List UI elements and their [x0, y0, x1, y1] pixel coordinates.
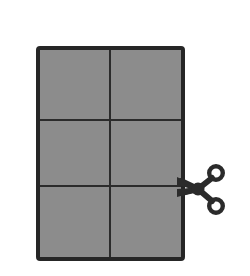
- figure-illustration: [0, 0, 250, 276]
- shaded-rectangle: [38, 48, 183, 259]
- scissors-pivot: [192, 183, 205, 196]
